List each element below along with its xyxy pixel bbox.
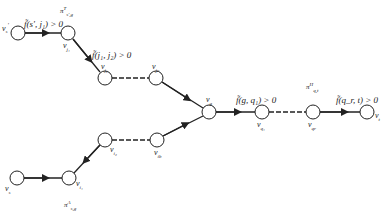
node-label-v-s: vs — [5, 185, 11, 195]
node-label-v-qr: vqr — [308, 121, 316, 131]
path-label-lower: πAs,g — [64, 200, 76, 211]
node-label-v-jc: vjc — [152, 63, 159, 73]
node-v-s-prime — [11, 26, 25, 40]
node-v-j2 — [98, 71, 112, 85]
node-v-jc — [149, 71, 163, 85]
node-label-v-ib: vib — [154, 149, 161, 159]
node-label-v-s-prime: vs' — [2, 22, 9, 34]
node-v-s — [10, 171, 24, 185]
edge-label-s-prime-j1: f̃(s', j₁) > 0 — [24, 20, 63, 29]
node-label-v-t: vt — [375, 112, 380, 122]
node-v-ib — [150, 133, 164, 147]
edge-label-g-q1: f̃(g, q₁) > 0 — [236, 96, 276, 105]
node-v-qr — [306, 105, 320, 119]
node-label-v-q1: vq₁ — [257, 121, 265, 131]
path-diagram — [0, 0, 384, 215]
edge-label-qr-t: f̃(q_r, t) > 0 — [336, 96, 378, 105]
path-label-upper: πTs',g — [60, 6, 73, 17]
edge-label-j1-j2: f̃(j₁, j₂) > 0 — [92, 51, 131, 60]
node-v-g — [202, 105, 216, 119]
node-label-v-j1: vj₁ — [63, 42, 70, 52]
path-label-right: πHq,t — [306, 82, 318, 93]
node-label-v-g: vg — [206, 96, 212, 106]
node-label-v-i2: vi₂ — [110, 146, 117, 156]
node-label-v-j2: vj₂ — [101, 63, 108, 73]
node-label-v-i1: vi₁ — [76, 180, 83, 190]
node-v-t — [360, 105, 374, 119]
node-v-q1 — [255, 105, 269, 119]
node-v-i1 — [62, 171, 76, 185]
